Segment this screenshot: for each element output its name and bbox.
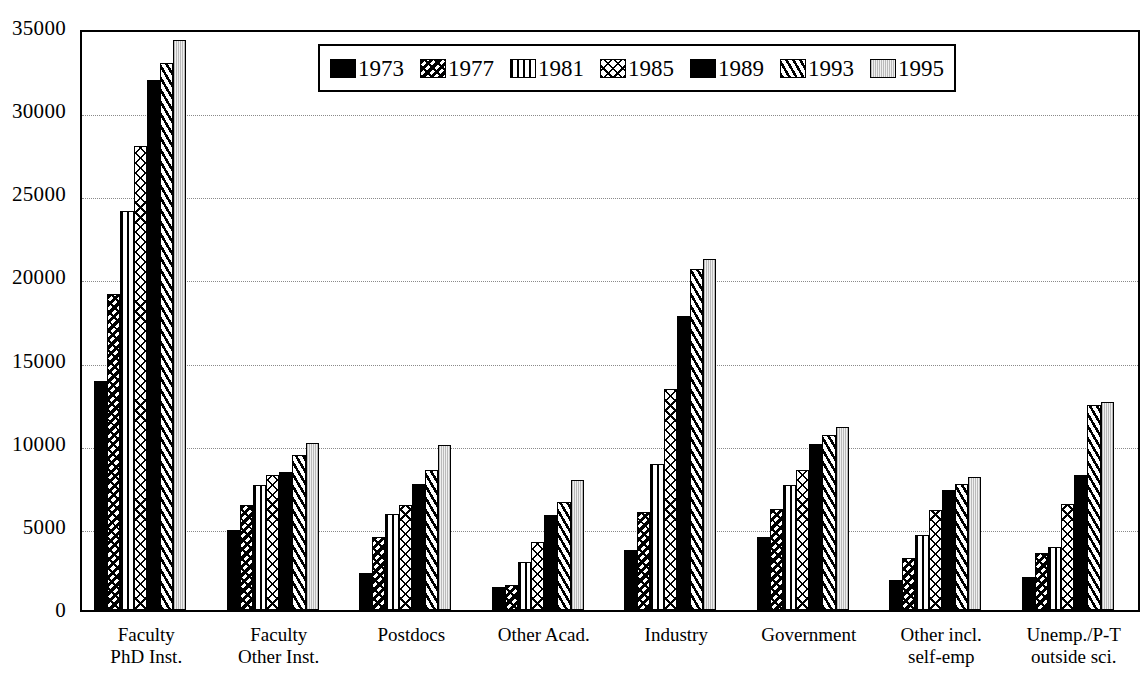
bar bbox=[492, 587, 505, 610]
bar bbox=[372, 537, 385, 610]
y-axis: 35000300002500020000150001000050000 bbox=[0, 0, 76, 681]
bar bbox=[1087, 405, 1100, 610]
x-axis-category-label: Other Acad. bbox=[478, 624, 611, 646]
legend-swatch-icon bbox=[420, 59, 446, 78]
bar bbox=[544, 515, 557, 610]
bar bbox=[557, 502, 570, 610]
bar bbox=[253, 485, 266, 610]
bar bbox=[942, 490, 955, 610]
bar bbox=[240, 505, 253, 610]
bar bbox=[822, 435, 835, 610]
legend-item: 1989 bbox=[690, 57, 764, 80]
x-axis-category-line: self-emp bbox=[875, 646, 1008, 668]
y-axis-tick-label: 20000 bbox=[12, 267, 76, 288]
legend-swatch-icon bbox=[690, 59, 716, 78]
legend-swatch-icon bbox=[600, 59, 626, 78]
bar bbox=[359, 573, 372, 610]
bar bbox=[518, 562, 531, 610]
x-axis-category-line: Other incl. bbox=[875, 624, 1008, 646]
bar-group bbox=[624, 32, 716, 610]
bar bbox=[955, 484, 968, 610]
x-axis-category-line: Industry bbox=[610, 624, 743, 646]
bar bbox=[147, 80, 160, 610]
x-axis-category-label: Unemp./P-Toutside sci. bbox=[1008, 624, 1141, 668]
bar bbox=[1035, 553, 1048, 610]
bar bbox=[1048, 547, 1061, 610]
legend-label: 1981 bbox=[538, 57, 584, 80]
bar bbox=[412, 484, 425, 610]
y-axis-tick-label: 0 bbox=[55, 600, 76, 621]
bar bbox=[929, 510, 942, 610]
bar bbox=[107, 294, 120, 610]
bar bbox=[173, 40, 186, 610]
x-axis-category-line: Other Acad. bbox=[478, 624, 611, 646]
legend-swatch-icon bbox=[330, 59, 356, 78]
bar bbox=[1101, 402, 1114, 610]
bars-layer bbox=[82, 32, 1138, 610]
bar bbox=[757, 537, 770, 610]
y-axis-tick-label: 35000 bbox=[12, 18, 76, 39]
bar bbox=[902, 558, 915, 610]
bar bbox=[306, 443, 319, 610]
x-axis-category-label: Other incl.self-emp bbox=[875, 624, 1008, 668]
bar-group bbox=[889, 32, 981, 610]
bar-group bbox=[227, 32, 319, 610]
x-axis-category-label: Postdocs bbox=[345, 624, 478, 646]
bar bbox=[915, 535, 928, 610]
bar bbox=[677, 316, 690, 610]
bar-chart: 35000300002500020000150001000050000 1973… bbox=[0, 0, 1143, 681]
bar bbox=[292, 455, 305, 610]
bar bbox=[650, 464, 663, 610]
x-axis-category-line: Other Inst. bbox=[213, 646, 346, 668]
x-axis-category-line: Postdocs bbox=[345, 624, 478, 646]
bar bbox=[120, 211, 133, 610]
bar bbox=[227, 530, 240, 610]
x-axis-category-line: Unemp./P-T bbox=[1008, 624, 1141, 646]
bar bbox=[783, 485, 796, 610]
legend-label: 1973 bbox=[358, 57, 404, 80]
bar bbox=[160, 63, 173, 610]
legend-item: 1981 bbox=[510, 57, 584, 80]
bar bbox=[664, 389, 677, 610]
bar bbox=[796, 470, 809, 610]
bar-group bbox=[359, 32, 451, 610]
legend-item: 1977 bbox=[420, 57, 494, 80]
y-axis-tick-label: 25000 bbox=[12, 184, 76, 205]
bar bbox=[690, 269, 703, 610]
x-axis-category-line: Faculty bbox=[80, 624, 213, 646]
legend-label: 1995 bbox=[898, 57, 944, 80]
bar bbox=[385, 514, 398, 610]
bar bbox=[703, 259, 716, 610]
bar bbox=[94, 381, 107, 610]
x-axis-category-label: FacultyOther Inst. bbox=[213, 624, 346, 668]
bar bbox=[1061, 504, 1074, 610]
bar bbox=[889, 580, 902, 610]
legend-swatch-icon bbox=[780, 59, 806, 78]
bar bbox=[624, 550, 637, 610]
bar bbox=[399, 505, 412, 610]
x-axis-category-line: PhD Inst. bbox=[80, 646, 213, 668]
y-axis-tick-label: 10000 bbox=[12, 434, 76, 455]
x-axis-category-line: outside sci. bbox=[1008, 646, 1141, 668]
bar bbox=[438, 445, 451, 610]
x-axis-category-line: Government bbox=[743, 624, 876, 646]
bar bbox=[637, 512, 650, 610]
x-axis-category-label: Government bbox=[743, 624, 876, 646]
bar bbox=[809, 444, 822, 610]
legend-label: 1977 bbox=[448, 57, 494, 80]
bar bbox=[531, 542, 544, 610]
bar bbox=[266, 475, 279, 610]
legend-item: 1973 bbox=[330, 57, 404, 80]
legend-item: 1995 bbox=[870, 57, 944, 80]
x-axis-category-line: Faculty bbox=[213, 624, 346, 646]
legend-label: 1989 bbox=[718, 57, 764, 80]
legend-swatch-icon bbox=[870, 59, 896, 78]
bar bbox=[571, 480, 584, 610]
legend-label: 1985 bbox=[628, 57, 674, 80]
bar bbox=[1074, 475, 1087, 610]
legend-item: 1993 bbox=[780, 57, 854, 80]
bar bbox=[425, 470, 438, 610]
x-axis-category-label: Industry bbox=[610, 624, 743, 646]
y-axis-tick-label: 15000 bbox=[12, 351, 76, 372]
legend-label: 1993 bbox=[808, 57, 854, 80]
